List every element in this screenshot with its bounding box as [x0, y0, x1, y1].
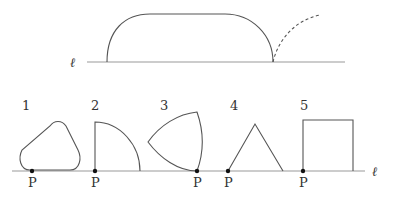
shape-1: 1 P — [20, 98, 80, 190]
shape-5: 5 P — [299, 98, 353, 190]
equilateral-triangle — [228, 124, 283, 171]
point-p-1-label: P — [28, 175, 37, 190]
point-p-3 — [195, 169, 199, 173]
quarter-circle — [95, 122, 140, 171]
reuleaux-triangle — [148, 112, 202, 171]
shape-5-number: 5 — [300, 98, 308, 113]
shape-3-number: 3 — [160, 98, 168, 113]
top-line-label: ℓ — [70, 55, 76, 70]
bottom-line-label: ℓ — [372, 164, 378, 179]
diagram-canvas: ℓ ℓ 1 P 2 P 3 P 4 — [0, 0, 396, 197]
point-p-2 — [93, 169, 97, 173]
shape-2-number: 2 — [91, 98, 99, 113]
point-p-2-label: P — [91, 175, 100, 190]
point-p-5 — [301, 169, 305, 173]
shape-2: 2 P — [91, 98, 140, 190]
top-figure: ℓ — [70, 14, 345, 70]
shape-3: 3 P — [148, 98, 202, 190]
rolling-path-curve — [107, 14, 273, 62]
point-p-3-label: P — [193, 175, 202, 190]
dashed-trajectory — [273, 15, 320, 62]
rounded-triangle — [20, 122, 80, 171]
shape-4: 4 P — [224, 98, 283, 190]
shape-1-number: 1 — [22, 98, 30, 113]
point-p-1 — [30, 169, 34, 173]
bottom-figure: ℓ 1 P 2 P 3 P 4 P — [12, 98, 378, 190]
square — [303, 120, 353, 171]
point-p-5-label: P — [299, 175, 308, 190]
point-p-4-label: P — [224, 175, 233, 190]
shape-4-number: 4 — [230, 98, 238, 113]
point-p-4 — [226, 169, 230, 173]
